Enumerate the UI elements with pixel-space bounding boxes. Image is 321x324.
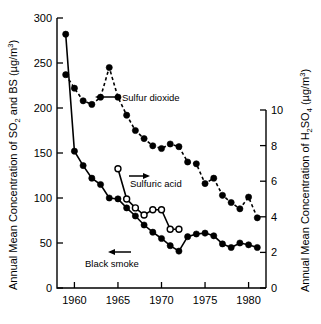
x-ticklabel: 1980 [236, 294, 260, 306]
sulfur-dioxide-point [202, 181, 208, 187]
sulfuric-acid-point [150, 207, 156, 213]
sulfuric-acid-point [124, 196, 130, 202]
x-ticklabel: 1970 [149, 294, 173, 306]
annotation-sulfur-dioxide: Sulfur dioxide [95, 92, 180, 103]
black-smoke-point [228, 244, 234, 250]
sulfur-dioxide-label: Sulfur dioxide [122, 92, 180, 103]
svg-text:Annual Mean Concentration of S: Annual Mean Concentration of SO2 and BS … [6, 40, 22, 290]
sulfur-dioxide-point [124, 112, 130, 118]
sulfur-dioxide-point [89, 101, 95, 107]
y-ticklabel-left: 150 [34, 147, 52, 159]
black-smoke-label: Black smoke [85, 258, 139, 269]
sulfur-dioxide-point [167, 141, 173, 147]
sulfur-dioxide-series-line [66, 68, 258, 218]
x-ticklabel: 1960 [62, 294, 86, 306]
black-smoke-point [115, 196, 121, 202]
black-smoke-point [176, 248, 182, 254]
sulfur-dioxide-point [71, 85, 77, 91]
x-ticklabel: 1975 [193, 294, 217, 306]
sulfuric-acid-point [176, 226, 182, 232]
black-smoke-point [150, 229, 156, 235]
axis-spines [57, 18, 266, 288]
data-series [63, 31, 261, 254]
black-smoke-point [158, 235, 164, 241]
black-smoke-point [132, 213, 138, 219]
left-axis-title-text: Annual Mean Concentration of SO [7, 122, 19, 290]
black-smoke-point [185, 234, 191, 240]
black-smoke-point [97, 181, 103, 187]
sulfuric-acid-point [141, 212, 147, 218]
sulfur-dioxide-point [185, 159, 191, 165]
sulfur-dioxide-point [254, 215, 260, 221]
y-ticklabel-left: 100 [34, 192, 52, 204]
black-smoke-point [167, 243, 173, 249]
sulfur-dioxide-point [150, 143, 156, 149]
sulfuric-acid-point [115, 166, 121, 172]
right-axis-title: Annual Mean Concentration of H2SO4 (µg/m… [298, 69, 314, 292]
black-smoke-point [202, 230, 208, 236]
black-smoke-point [89, 175, 95, 181]
sulfur-dioxide-point [106, 64, 112, 70]
y-ticklabel-right: 2 [271, 246, 277, 258]
y-ticklabel-left: 300 [34, 12, 52, 24]
black-smoke-point [211, 233, 217, 239]
sulfuric-acid-point [159, 207, 165, 213]
black-smoke-series-line [66, 34, 258, 251]
sulfur-dioxide-point [158, 145, 164, 151]
y-ticklabel-left: 250 [34, 57, 52, 69]
left-axis-title: Annual Mean Concentration of SO2 and BS … [6, 40, 22, 290]
black-smoke-point [245, 242, 251, 248]
y-ticklabel-left: 200 [34, 102, 52, 114]
y-ticklabel-right: 6 [271, 175, 277, 187]
svg-text:Annual Mean Concentration of H: Annual Mean Concentration of H2SO4 (µg/m… [298, 69, 314, 292]
sulfur-dioxide-point [228, 199, 234, 205]
black-smoke-point [237, 240, 243, 246]
black-smoke-point [80, 163, 86, 169]
y-ticklabel-right: 4 [271, 211, 277, 223]
chart-figure: 0501001502002503000246810196019651970197… [0, 0, 321, 324]
black-smoke-point [63, 31, 69, 37]
black-smoke-point [106, 195, 112, 201]
sulfur-dioxide-point [219, 192, 225, 198]
sulfur-dioxide-point [211, 175, 217, 181]
sulfuric-acid-point [167, 226, 173, 232]
black-smoke-point [141, 222, 147, 228]
sulfur-dioxide-point [237, 206, 243, 212]
black-smoke-point [254, 244, 260, 250]
y-ticklabel-right: 10 [271, 104, 283, 116]
sulfur-dioxide-point [141, 136, 147, 142]
black-smoke-point [124, 205, 130, 211]
annotation-sulfuric-acid: Sulfuric acid [129, 173, 182, 189]
pollution-trend-chart: 0501001502002503000246810196019651970197… [0, 0, 321, 324]
y-ticklabel-right: 8 [271, 140, 277, 152]
axes: 0501001502002503000246810196019651970197… [34, 12, 284, 306]
y-ticklabel-left: 50 [40, 237, 52, 249]
sulfur-dioxide-point [132, 127, 138, 133]
sulfur-dioxide-point [176, 144, 182, 150]
y-ticklabel-left: 0 [46, 282, 52, 294]
black-smoke-point [71, 148, 77, 154]
sulfuric-acid-label: Sulfuric acid [130, 178, 182, 189]
right-axis-title-text: Annual Mean Concentration of H [299, 132, 311, 292]
sulfuric-acid-point [132, 205, 138, 211]
sulfur-dioxide-point [193, 161, 199, 167]
black-smoke-point [219, 241, 225, 247]
annotation-black-smoke: Black smoke [85, 249, 139, 269]
sulfur-dioxide-point [80, 98, 86, 104]
black-smoke-point [193, 231, 199, 237]
y-ticklabel-right: 0 [271, 282, 277, 294]
x-ticklabel: 1965 [106, 294, 130, 306]
sulfur-dioxide-point [245, 194, 251, 200]
